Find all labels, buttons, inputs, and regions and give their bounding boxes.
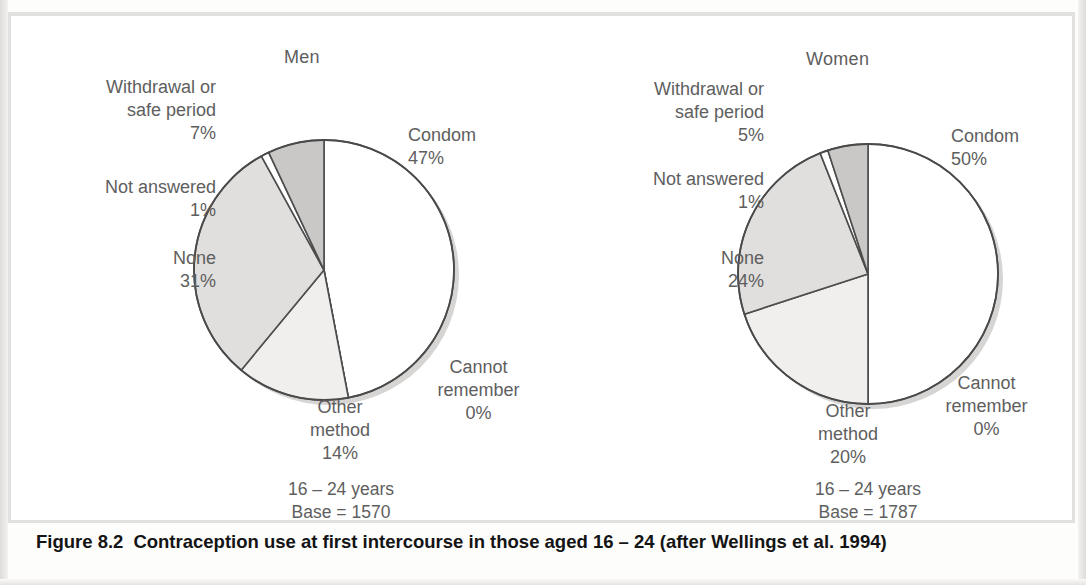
pie-chart-women xyxy=(736,142,1000,406)
pie-basenote-women-base: Base = 1787 xyxy=(753,501,983,524)
pie-label-men-not-answered: Not answered 1% xyxy=(31,176,216,222)
pie-label-men-none: None 31% xyxy=(56,247,216,293)
pie-basenote-women-age: 16 – 24 years xyxy=(753,478,983,501)
pie-label-men-withdrawal: Withdrawal or safe period 7% xyxy=(51,76,216,145)
pie-label-women-condom: Condom 50% xyxy=(951,125,1086,171)
pie-basenote-men-age: 16 – 24 years xyxy=(226,478,456,501)
pie-label-women-none: None 24% xyxy=(604,247,764,293)
pie-label-women-other-method: Other method 20% xyxy=(783,400,913,469)
pie-label-men-cannot-remember: Cannot remember 0% xyxy=(396,356,561,425)
scanned-page: Men Withdrawal or safe period 7% Not ans… xyxy=(0,0,1086,585)
pie-label-women-withdrawal: Withdrawal or safe period 5% xyxy=(599,78,764,147)
figure-frame: Men Withdrawal or safe period 7% Not ans… xyxy=(8,12,1075,523)
figure-caption: Figure 8.2Contraception use at first int… xyxy=(36,531,1066,553)
pie-label-women-not-answered: Not answered 1% xyxy=(579,168,764,214)
pie-chart-women-svg xyxy=(736,142,1000,406)
figure-caption-text: Contraception use at first intercourse i… xyxy=(133,531,886,552)
pie-label-men-other-method: Other method 14% xyxy=(275,396,405,465)
figure-caption-label: Figure 8.2 xyxy=(36,531,123,552)
pie-slice-condom xyxy=(868,144,998,404)
chart-title-women: Women xyxy=(806,49,869,70)
page-edge-left xyxy=(0,0,8,585)
page-edge-bottom xyxy=(0,579,1086,585)
chart-title-men: Men xyxy=(284,47,320,68)
pie-label-women-cannot-remember: Cannot remember 0% xyxy=(904,372,1069,441)
pie-basenote-men-base: Base = 1570 xyxy=(226,501,456,524)
pie-label-men-condom: Condom 47% xyxy=(408,124,608,170)
page-edge-right xyxy=(1078,0,1086,585)
